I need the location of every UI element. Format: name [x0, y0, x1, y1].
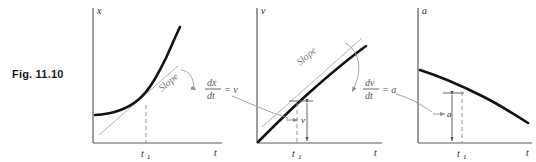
acceleration-incoming-connector — [396, 94, 432, 112]
position-curve — [95, 27, 180, 115]
position-equation-numerator: dx — [207, 77, 217, 88]
position-x-axis-label: t — [214, 147, 217, 158]
figure-svg: x t t 1 Slope dx dt = v — [0, 0, 536, 162]
position-equation: dx dt = v — [205, 77, 238, 101]
acceleration-x-axis-label: t — [526, 147, 529, 158]
acceleration-curve — [420, 70, 528, 123]
acceleration-y-axis-label: a — [422, 5, 427, 16]
acceleration-t1-tick-label: t 1 — [457, 148, 467, 161]
velocity-y-axis-label: v — [261, 5, 266, 16]
velocity-measure-label: v — [301, 115, 305, 125]
acceleration-t1-letter: t — [457, 148, 460, 159]
acceleration-measure-label: a — [447, 109, 452, 119]
position-equation-rest: = v — [224, 84, 238, 95]
velocity-t1-tick-label: t 1 — [292, 148, 302, 161]
position-t1-letter: t — [141, 148, 144, 159]
position-equation-denominator: dt — [207, 90, 215, 101]
acceleration-t1-subscript: 1 — [463, 153, 467, 161]
velocity-equation-numerator: dv — [365, 77, 375, 88]
velocity-incoming-connector — [232, 96, 288, 118]
position-slope-label: Slope — [156, 70, 180, 93]
figure-caption: Fig. 11.10 — [12, 68, 64, 80]
position-t1-tick-label: t 1 — [141, 148, 151, 161]
velocity-x-axis-label: t — [374, 147, 377, 158]
velocity-curve — [258, 46, 366, 142]
position-slope-annotation-arrow — [181, 70, 196, 90]
velocity-t1-subscript: 1 — [298, 153, 302, 161]
velocity-panel: v v t t 1 Slope dv dt = a — [232, 5, 396, 161]
velocity-equation: dv dt = a — [363, 77, 396, 101]
position-panel: x t t 1 Slope dx dt = v — [93, 5, 238, 161]
velocity-equation-rest: = a — [382, 84, 396, 95]
position-t1-subscript: 1 — [147, 153, 151, 161]
position-y-axis-label: x — [96, 5, 102, 16]
velocity-slope-label: Slope — [294, 44, 318, 67]
figure-container: Fig. 11.10 x — [0, 0, 536, 162]
acceleration-panel: a a t t 1 — [396, 5, 532, 161]
velocity-t1-letter: t — [292, 148, 295, 159]
velocity-slope-annotation-arrow — [345, 43, 359, 92]
velocity-equation-denominator: dt — [365, 90, 373, 101]
